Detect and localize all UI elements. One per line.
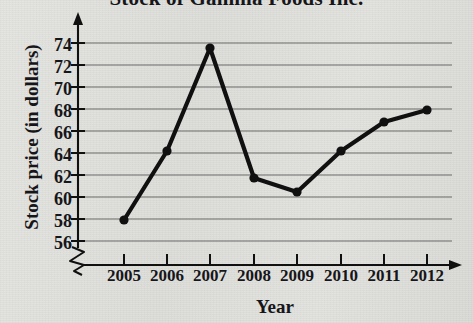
data-point-2011 — [379, 117, 388, 126]
data-point-2006 — [162, 146, 171, 155]
plot-area — [0, 0, 473, 323]
arrow-right-icon — [449, 260, 462, 270]
data-point-2010 — [336, 146, 345, 155]
data-point-2009 — [292, 187, 301, 196]
axis-break-zigzag-icon — [70, 247, 84, 275]
data-point-2008 — [249, 173, 258, 182]
data-point-2012 — [422, 105, 431, 114]
x-axis-ticks — [124, 254, 427, 265]
line-chart-figure: Stock of Gamma Foods Inc. Stock price (i… — [0, 0, 473, 323]
data-point-2007 — [205, 43, 214, 52]
data-point-2005 — [119, 215, 128, 224]
x-axis-line — [82, 260, 462, 270]
data-line-stock-price — [124, 48, 427, 220]
gridlines — [78, 43, 452, 241]
arrow-up-icon — [73, 12, 83, 25]
